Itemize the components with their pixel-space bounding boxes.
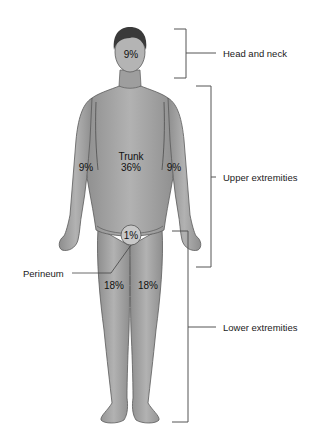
left-leg-percent: 18% [100, 280, 128, 291]
left-arm-percent: 9% [74, 162, 98, 173]
trunk-label: Trunk [108, 151, 154, 162]
bracket-lower-extremities [172, 231, 188, 422]
body-diagram [0, 0, 321, 443]
bracket-head-neck [174, 29, 186, 78]
right-arm-percent: 9% [162, 162, 186, 173]
head-percent: 9% [118, 49, 144, 60]
lower-extremities-label: Lower extremities [223, 322, 297, 333]
perineum-label: Perineum [23, 268, 64, 279]
neck [119, 70, 141, 88]
trunk-percent: 36% [108, 162, 154, 173]
head-and-neck-label: Head and neck [223, 48, 287, 59]
legs [97, 228, 162, 423]
right-leg-percent: 18% [134, 280, 162, 291]
perineum-percent: 1% [121, 230, 141, 241]
upper-extremities-label: Upper extremities [223, 172, 297, 183]
